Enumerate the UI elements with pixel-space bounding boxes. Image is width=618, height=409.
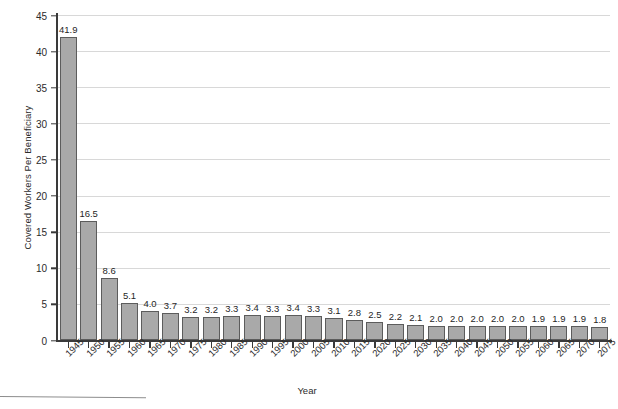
bar[interactable] (346, 320, 363, 340)
bar-value-label: 1.9 (573, 313, 586, 324)
bar-series: 41.916.58.65.14.03.73.23.23.33.43.33.43.… (58, 0, 610, 340)
bar[interactable] (305, 316, 322, 340)
bar-value-label: 2.2 (389, 311, 402, 322)
bar[interactable] (285, 315, 302, 340)
bar-slot: 2.8 (344, 0, 364, 340)
bar-slot: 3.3 (303, 0, 323, 340)
y-axis-tick-label: 15 (36, 227, 47, 238)
bar-value-label: 1.8 (593, 314, 606, 325)
bar-value-label: 3.4 (286, 302, 299, 313)
bar[interactable] (203, 317, 220, 340)
y-axis-tick-mark (51, 15, 57, 16)
y-axis-tick-mark (51, 268, 57, 269)
bar[interactable] (60, 37, 77, 340)
bar-value-label: 16.5 (79, 208, 98, 219)
y-axis-tick-mark (51, 304, 57, 305)
y-axis-tick-label: 25 (36, 154, 47, 165)
bar-value-label: 2.0 (511, 313, 524, 324)
bar-slot: 2.0 (467, 0, 487, 340)
bar-slot: 41.9 (58, 0, 78, 340)
bar[interactable] (162, 313, 179, 340)
y-axis-tick: 15 (0, 232, 57, 233)
bar-slot: 16.5 (78, 0, 98, 340)
bar-value-label: 3.3 (266, 303, 279, 314)
bar[interactable] (101, 278, 118, 340)
bar[interactable] (366, 322, 383, 340)
bar-slot: 3.4 (242, 0, 262, 340)
bar-value-label: 3.7 (164, 300, 177, 311)
bar-value-label: 3.1 (327, 305, 340, 316)
bar-value-label: 2.0 (450, 313, 463, 324)
bar-slot: 2.0 (446, 0, 466, 340)
y-axis-tick: 30 (0, 123, 57, 124)
bar[interactable] (387, 324, 404, 340)
y-axis-tick-label: 10 (36, 263, 47, 274)
y-axis-title: Covered Workers Per Beneficiary (22, 18, 33, 338)
bar-slot: 2.5 (365, 0, 385, 340)
y-axis-tick-label: 30 (36, 118, 47, 129)
y-axis-tick: 0 (0, 340, 57, 341)
y-axis-tick-label: 35 (36, 82, 47, 93)
bar-slot: 3.7 (160, 0, 180, 340)
bar[interactable] (121, 303, 138, 340)
bar[interactable] (407, 325, 424, 340)
bar-value-label: 2.8 (348, 307, 361, 318)
y-axis-tick-mark (51, 159, 57, 160)
bar-slot: 3.1 (324, 0, 344, 340)
bar-slot: 4.0 (140, 0, 160, 340)
bar-slot: 1.9 (569, 0, 589, 340)
y-axis-tick-label: 40 (36, 46, 47, 57)
y-axis-tick-mark (51, 123, 57, 124)
y-axis-tick-mark (51, 87, 57, 88)
bar-slot: 1.8 (590, 0, 610, 340)
bar-value-label: 3.3 (307, 303, 320, 314)
bar-slot: 2.0 (426, 0, 446, 340)
bar[interactable] (141, 311, 158, 340)
y-axis-tick: 45 (0, 15, 57, 16)
bar-value-label: 2.1 (409, 312, 422, 323)
bar-value-label: 4.0 (143, 298, 156, 309)
y-axis-tick-label: 45 (36, 10, 47, 21)
bar[interactable] (182, 317, 199, 340)
bar[interactable] (325, 318, 342, 340)
y-axis-tick: 20 (0, 196, 57, 197)
bar-slot: 3.4 (283, 0, 303, 340)
bar-slot: 3.3 (222, 0, 242, 340)
y-axis-tick-label: 20 (36, 191, 47, 202)
bar[interactable] (80, 221, 97, 340)
bar[interactable] (550, 326, 567, 340)
bar-value-label: 3.4 (246, 302, 259, 313)
y-axis-tick-mark (51, 340, 57, 341)
bar-value-label: 41.9 (59, 24, 78, 35)
y-axis-tick: 25 (0, 159, 57, 160)
bar[interactable] (591, 327, 608, 340)
bar[interactable] (489, 326, 506, 340)
bar-value-label: 5.1 (123, 290, 136, 301)
bar-slot: 3.2 (181, 0, 201, 340)
bar[interactable] (509, 326, 526, 340)
bar-value-label: 2.0 (430, 313, 443, 324)
bar-value-label: 3.2 (184, 304, 197, 315)
bar[interactable] (244, 315, 261, 340)
bar[interactable] (264, 316, 281, 340)
y-axis-tick-mark (51, 231, 57, 232)
footnote-divider (0, 396, 146, 398)
bar-value-label: 1.9 (532, 313, 545, 324)
bar-slot: 1.9 (549, 0, 569, 340)
y-axis-tick: 40 (0, 51, 57, 52)
bar[interactable] (223, 316, 240, 340)
bar-slot: 2.1 (406, 0, 426, 340)
bar-value-label: 2.0 (470, 313, 483, 324)
y-axis-tick: 35 (0, 87, 57, 88)
y-axis-tick-mark (51, 195, 57, 196)
bar-value-label: 3.3 (225, 303, 238, 314)
y-axis-tick: 5 (0, 304, 57, 305)
y-axis-tick-label: 5 (41, 299, 47, 310)
bar-value-label: 1.9 (552, 313, 565, 324)
bar-slot: 3.2 (201, 0, 221, 340)
bar-value-label: 8.6 (102, 265, 115, 276)
bar-slot: 5.1 (119, 0, 139, 340)
bar[interactable] (469, 326, 486, 340)
y-axis-tick-label: 0 (41, 335, 47, 346)
bar[interactable] (448, 326, 465, 340)
